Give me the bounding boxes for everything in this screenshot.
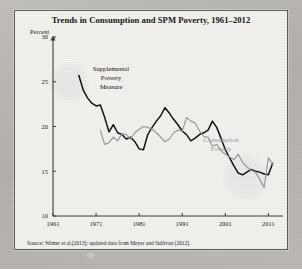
- svg-text:2011: 2011: [262, 220, 275, 227]
- svg-text:Poverty: Poverty: [211, 145, 232, 152]
- svg-text:Consumption: Consumption: [203, 136, 239, 143]
- svg-text:Poverty: Poverty: [101, 74, 122, 81]
- svg-text:1961: 1961: [47, 220, 60, 227]
- figure-panel: Trends in Consumption and SPM Poverty, 1…: [14, 10, 288, 250]
- svg-text:25: 25: [42, 78, 48, 85]
- svg-text:1971: 1971: [90, 220, 103, 227]
- svg-text:2001: 2001: [219, 220, 232, 227]
- svg-text:1991: 1991: [176, 220, 189, 227]
- svg-text:1981: 1981: [133, 220, 146, 227]
- svg-text:Measure: Measure: [100, 83, 123, 90]
- y-axis-label: Percent: [30, 28, 49, 35]
- chart-series: [79, 75, 273, 187]
- svg-text:Supplemental: Supplemental: [93, 65, 129, 72]
- chart-title: Trends in Consumption and SPM Poverty, 1…: [15, 15, 287, 25]
- chart-plot-area: 1015202530196119711981199120012011 Suppl…: [15, 11, 289, 251]
- svg-text:20: 20: [42, 123, 48, 130]
- chart-axes: 1015202530196119711981199120012011: [42, 33, 283, 227]
- source-note: Source: Wimer et al.(2013); updated data…: [27, 240, 191, 246]
- svg-text:10: 10: [42, 212, 48, 219]
- svg-text:15: 15: [42, 168, 48, 175]
